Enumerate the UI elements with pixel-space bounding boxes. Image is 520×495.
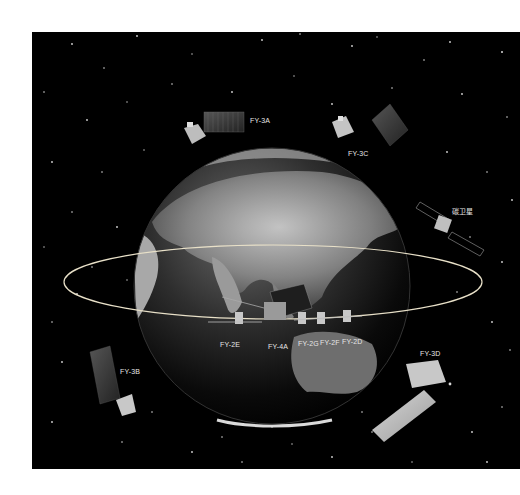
label-fy4a: FY-4A — [268, 343, 288, 350]
label-fy2f: FY-2F — [320, 339, 340, 346]
label-fy3c: FY-3C — [348, 150, 369, 157]
satellite-fy3c — [332, 104, 408, 146]
scene-graphic — [32, 32, 520, 469]
label-tansat: 碳卫星 — [452, 206, 474, 216]
space-scene: FY-3A FY-3C 碳卫星 FY-2E FY-4A FY-2G FY-2F … — [32, 32, 520, 469]
satellite-fy3a — [184, 112, 244, 144]
satellite-fy2g — [298, 312, 306, 324]
label-fy3b: FY-3B — [120, 368, 140, 375]
satellite-fy3d — [372, 360, 446, 442]
earth-globe — [134, 148, 410, 426]
satellite-fy3b — [90, 346, 136, 416]
label-fy2d: FY-2D — [342, 338, 363, 345]
label-fy2e: FY-2E — [220, 341, 240, 348]
label-fy3d: FY-3D — [420, 350, 441, 357]
label-fy2g: FY-2G — [298, 340, 319, 347]
label-fy3a: FY-3A — [250, 117, 270, 124]
